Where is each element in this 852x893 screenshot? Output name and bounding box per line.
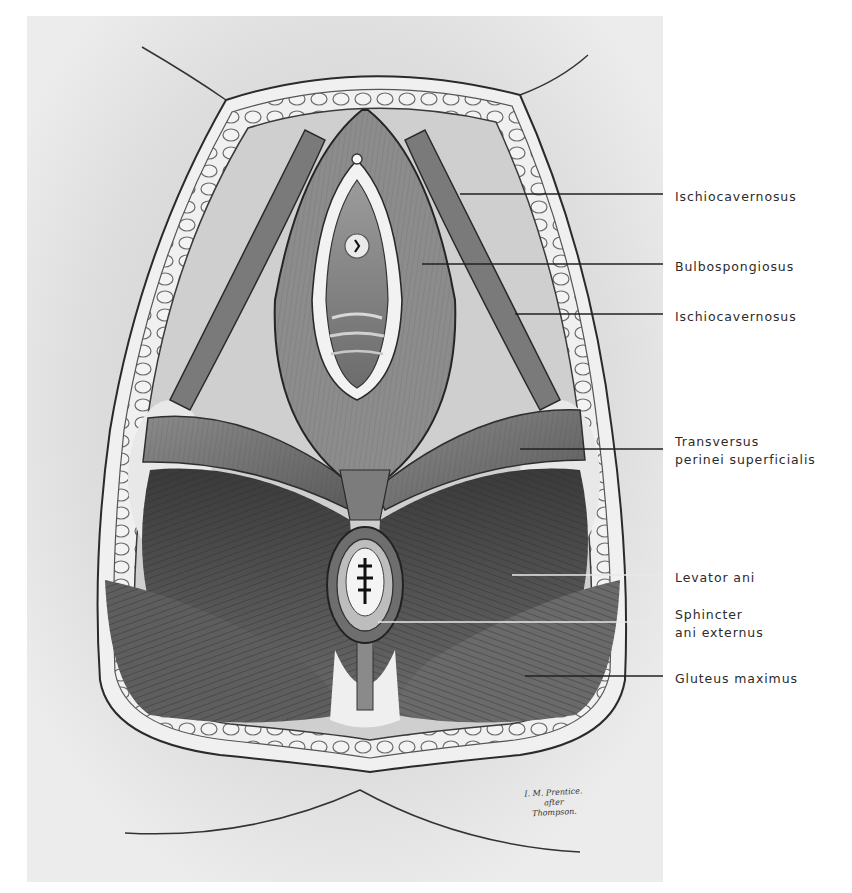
label-transversus-perinei-superficialis: Transversus perinei superficialis bbox=[675, 433, 816, 469]
label-text: Ischiocavernosus bbox=[675, 188, 797, 206]
label-text-line-2: perinei superficialis bbox=[675, 451, 816, 469]
clitoris bbox=[352, 154, 362, 164]
label-levator-ani: Levator ani bbox=[675, 569, 755, 587]
artist-signature: I. M. Prentice. after Thompson. bbox=[513, 786, 594, 820]
label-ischiocavernosus-lower: Ischiocavernosus bbox=[675, 308, 797, 326]
anococcygeal-ligament bbox=[357, 640, 373, 710]
label-text: Gluteus maximus bbox=[675, 670, 798, 688]
urethral-orifice bbox=[345, 234, 369, 258]
label-ischiocavernosus-upper: Ischiocavernosus bbox=[675, 188, 797, 206]
label-text-line-1: Sphincter bbox=[675, 606, 764, 624]
label-sphincter-ani-externus: Sphincter ani externus bbox=[675, 606, 764, 642]
label-text: Bulbospongiosus bbox=[675, 258, 794, 276]
label-bulbospongiosus: Bulbospongiosus bbox=[675, 258, 794, 276]
label-text: Ischiocavernosus bbox=[675, 308, 797, 326]
label-text-line-2: ani externus bbox=[675, 624, 764, 642]
label-gluteus-maximus: Gluteus maximus bbox=[675, 670, 798, 688]
label-text-line-1: Transversus bbox=[675, 433, 816, 451]
label-text: Levator ani bbox=[675, 569, 755, 587]
